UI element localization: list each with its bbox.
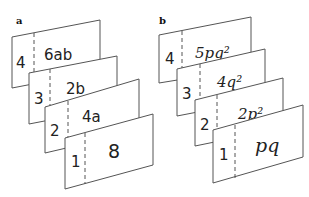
card-index: 3 xyxy=(34,90,44,108)
card-value: 2b xyxy=(66,80,85,98)
card-index: 3 xyxy=(182,85,192,103)
panel-a: a 4 6ab 3 2b 2 4a 1 8 xyxy=(12,15,153,189)
card-stack-diagram: a 4 6ab 3 2b 2 4a 1 8 b xyxy=(0,0,309,197)
panel-label: b xyxy=(159,15,166,26)
panel-b: b 4 5pq² 3 4q² 2 2p² 1 pq xyxy=(159,15,303,183)
card-index: 2 xyxy=(200,116,210,134)
card-value: 6ab xyxy=(44,46,72,64)
card-index: 4 xyxy=(16,54,26,72)
card-value: pq xyxy=(255,134,279,156)
card-index: 2 xyxy=(50,122,60,140)
card-value: 4q² xyxy=(216,73,242,91)
card-value: 4a xyxy=(82,108,101,126)
card-value: 8 xyxy=(108,140,120,162)
card-index: 1 xyxy=(71,153,81,171)
card-index: 4 xyxy=(165,50,175,68)
card-index: 1 xyxy=(219,146,229,164)
panel-label: a xyxy=(16,15,23,26)
